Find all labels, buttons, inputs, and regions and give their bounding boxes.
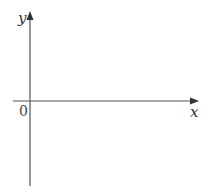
origin-label: 0 [19,103,28,119]
y-axis-arrow-icon [27,11,34,20]
x-axis [13,98,199,105]
y-axis-label: y [17,9,27,27]
coordinate-plane: y x 0 [0,0,210,194]
y-axis [27,11,34,186]
x-axis-label: x [190,103,199,121]
